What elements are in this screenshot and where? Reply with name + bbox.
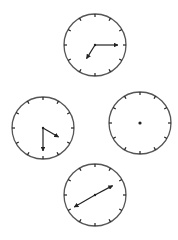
clocks-figure [0, 0, 178, 240]
center-dot [138, 121, 141, 124]
clock-top [64, 14, 126, 76]
clock-left [12, 97, 74, 159]
center-dot [94, 44, 96, 46]
clock-bottom [64, 164, 126, 226]
center-dot [42, 127, 44, 129]
center-dot [94, 194, 96, 196]
clock-right [109, 92, 171, 154]
